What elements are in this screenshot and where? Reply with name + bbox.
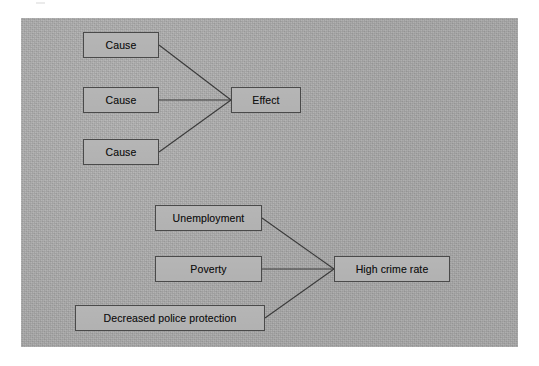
node-label: Poverty	[190, 264, 226, 275]
node-label: Effect	[252, 95, 279, 106]
node-label: Unemployment	[173, 213, 245, 224]
node-label: Cause	[106, 40, 137, 51]
node-cause-3[interactable]: Cause	[83, 139, 159, 165]
connector-layer	[21, 18, 518, 347]
node-high-crime-rate[interactable]: High crime rate	[334, 256, 450, 282]
node-label: High crime rate	[356, 264, 429, 275]
connector-unemployment-crime	[262, 218, 334, 269]
node-cause-2[interactable]: Cause	[83, 87, 159, 113]
node-effect[interactable]: Effect	[231, 87, 301, 113]
scan-artifact	[36, 2, 45, 4]
node-label: Cause	[106, 147, 137, 158]
node-label: Cause	[106, 95, 137, 106]
node-label: Decreased police protection	[104, 313, 237, 324]
node-cause-1[interactable]: Cause	[83, 32, 159, 58]
connector-cause3-effect	[159, 100, 231, 152]
node-poverty[interactable]: Poverty	[155, 256, 262, 282]
diagram-panel: Cause Cause Cause Effect Unemployment Po…	[21, 18, 518, 347]
connector-cause1-effect	[159, 45, 231, 100]
connector-police-crime	[265, 269, 334, 318]
node-decreased-police-protection[interactable]: Decreased police protection	[75, 305, 265, 331]
node-unemployment[interactable]: Unemployment	[155, 205, 262, 231]
